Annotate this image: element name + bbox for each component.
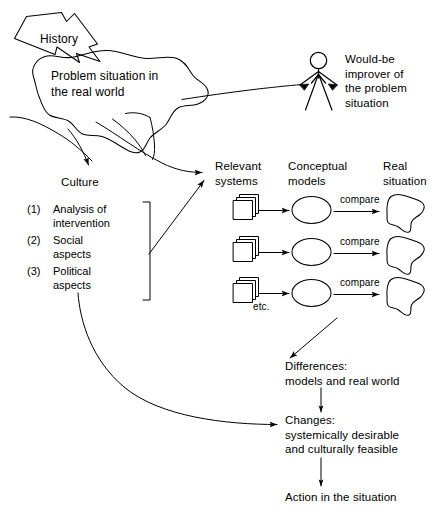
etc-label: etc. (253, 301, 270, 313)
list-item-number: (3) (27, 265, 53, 279)
list-item: (2) Social aspects (27, 234, 157, 261)
column-header-real-situation: Real situation (383, 159, 427, 188)
problem-situation-blob-shape (33, 50, 208, 159)
action-label: Action in the situation (285, 491, 397, 505)
relevant-system-cards-2 (234, 237, 259, 262)
connector-culture-to-changes (78, 293, 277, 425)
list-item-text: Analysis of intervention (53, 203, 110, 230)
column-header-conceptual-models: Conceptual models (288, 159, 347, 188)
compare-label-3: compare (340, 277, 380, 289)
list-item-text: Political aspects (53, 265, 91, 292)
problem-situation-label: Problem situation in the real world (51, 68, 158, 100)
compare-label-1: compare (340, 194, 380, 206)
list-item-number: (1) (27, 203, 53, 217)
history-label: History (40, 33, 78, 47)
column-header-relevant-systems: Relevant systems (215, 159, 261, 188)
culture-label: Culture (61, 176, 99, 190)
row-2-group (234, 236, 425, 274)
ssm-diagram: History Problem situation in the real wo… (0, 0, 440, 519)
relevant-system-cards-1 (234, 195, 259, 220)
relevant-system-cards-3 (234, 278, 259, 303)
row-1-group (234, 194, 425, 232)
connector-curve-left (10, 117, 92, 161)
changes-label: Changes: systemically desirable and cult… (285, 413, 399, 457)
compare-label-2: compare (340, 236, 380, 248)
list-item: (1) Analysis of intervention (27, 203, 157, 230)
connector-to-differences (290, 318, 337, 358)
connector-to-relevant-systems (96, 122, 202, 173)
list-item: (3) Political aspects (27, 265, 157, 292)
differences-label: Differences: models and real world (285, 359, 400, 388)
connector-blob-to-actor (182, 85, 302, 100)
stick-figure-icon (300, 52, 337, 110)
culture-analysis-list: (1) Analysis of intervention (2) Social … (27, 203, 157, 296)
list-item-number: (2) (27, 234, 53, 248)
list-item-text: Social aspects (53, 234, 91, 261)
connector-list-to-relevant-systems (149, 181, 204, 255)
would-be-improver-label: Would-be improver of the problem situati… (345, 52, 407, 110)
